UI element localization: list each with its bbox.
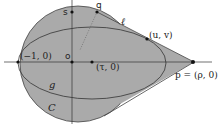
label-minus-one: (−1, 0) bbox=[20, 51, 52, 61]
point-q bbox=[95, 10, 98, 13]
point-tau bbox=[90, 60, 93, 63]
diagram-canvas: s q ℓ (u, v) (−1, 0) o (τ, 0) p = (ρ, 0)… bbox=[0, 0, 220, 124]
point-p bbox=[191, 60, 195, 64]
label-p: p = (ρ, 0) bbox=[175, 70, 218, 80]
label-tau: (τ, 0) bbox=[96, 62, 119, 72]
label-s: s bbox=[63, 7, 68, 17]
label-g: g bbox=[49, 79, 55, 90]
point-o bbox=[70, 60, 73, 63]
label-q: q bbox=[96, 0, 102, 10]
point-s bbox=[70, 10, 73, 13]
label-ell: ℓ bbox=[121, 16, 125, 27]
label-C: C bbox=[48, 102, 56, 113]
label-o: o bbox=[65, 51, 71, 61]
label-uv: (u, v) bbox=[149, 30, 173, 40]
